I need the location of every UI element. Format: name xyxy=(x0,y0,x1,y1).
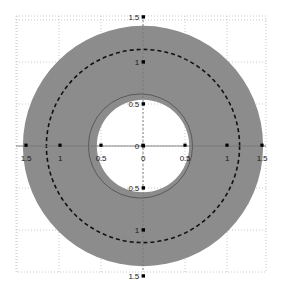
x-tick-marker xyxy=(260,144,263,147)
y-axis-tick-label: 1 xyxy=(135,58,139,67)
x-axis-tick-label: 0.5 xyxy=(180,154,191,163)
y-axis-tick-label: 1 xyxy=(135,226,139,235)
y-axis-tick-label: 1.5 xyxy=(128,272,139,281)
y-tick-marker xyxy=(142,102,145,105)
y-tick-marker xyxy=(142,144,145,147)
x-tick-marker xyxy=(24,144,27,147)
y-tick-marker xyxy=(142,186,145,189)
y-tick-marker xyxy=(142,15,145,18)
x-tick-marker xyxy=(183,144,186,147)
y-axis-tick-label: 0.5 xyxy=(128,100,139,109)
y-tick-marker xyxy=(142,60,145,63)
x-axis-tick-label: 0 xyxy=(141,154,145,163)
y-tick-marker xyxy=(142,274,145,277)
y-axis-tick-label: 1.5 xyxy=(128,13,139,22)
y-tick-marker xyxy=(142,228,145,231)
x-axis-tick-label: 1 xyxy=(225,154,229,163)
x-tick-marker xyxy=(225,144,228,147)
x-axis-tick-label: 1 xyxy=(58,154,62,163)
x-tick-marker xyxy=(58,144,61,147)
y-axis-tick-label: 0.5 xyxy=(128,184,139,193)
y-axis-tick-label: 0 xyxy=(135,142,139,151)
x-axis-tick-label: 1.5 xyxy=(21,154,32,163)
x-axis-tick-label: 1.5 xyxy=(257,154,268,163)
plot-figure: 1.510.500.511.51.510.500.511.5 xyxy=(0,0,281,296)
annulus-plot-canvas xyxy=(0,0,281,296)
x-axis-tick-label: 0.5 xyxy=(96,154,107,163)
x-tick-marker xyxy=(99,144,102,147)
